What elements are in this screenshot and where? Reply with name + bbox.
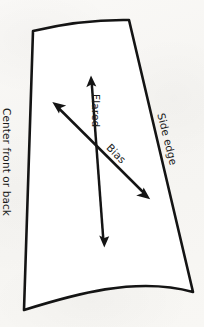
label-center-front-or-back: Center front or back: [2, 108, 13, 216]
label-flared: Flared: [91, 94, 102, 127]
pattern-diagram: Center front or back Side edge Flared Bi…: [0, 0, 204, 327]
